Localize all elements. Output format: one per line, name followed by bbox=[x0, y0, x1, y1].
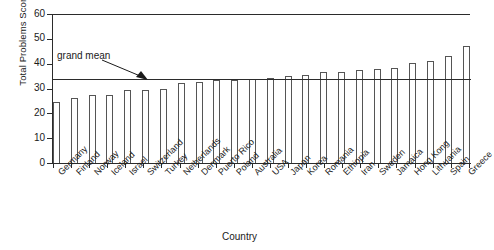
x-tick-label-slot: Finland bbox=[71, 168, 78, 238]
x-tick-label-slot: Germany bbox=[53, 168, 60, 238]
y-tick-label: 40 bbox=[34, 57, 45, 68]
x-tick-label-slot: Korea bbox=[302, 168, 309, 238]
x-tick-label-slot: Lithuania bbox=[427, 168, 434, 238]
y-tick: 10 bbox=[0, 138, 52, 139]
x-tick-label-slot: Hong Kong bbox=[409, 168, 416, 238]
y-tick-label: 60 bbox=[34, 8, 45, 19]
y-tick: 40 bbox=[0, 64, 52, 65]
y-tick-label: 30 bbox=[34, 82, 45, 93]
x-tick-label-slot: Norway bbox=[89, 168, 96, 238]
y-tick: 0 bbox=[0, 163, 52, 164]
y-tick: 60 bbox=[0, 14, 52, 15]
x-tick-label-slot: Netherlands bbox=[178, 168, 185, 238]
y-tick-label: 10 bbox=[34, 132, 45, 143]
y-tick: 50 bbox=[0, 39, 52, 40]
bar bbox=[302, 75, 309, 163]
bar bbox=[142, 90, 149, 164]
y-tick-label: 50 bbox=[34, 32, 45, 43]
bar bbox=[53, 102, 60, 163]
x-tick-label-slot: Israel bbox=[124, 168, 131, 238]
bar bbox=[463, 46, 470, 163]
bar bbox=[374, 69, 381, 163]
bar bbox=[285, 76, 292, 163]
x-tick-label-slot: Denmark bbox=[196, 168, 203, 238]
y-tick-label: 20 bbox=[34, 107, 45, 118]
y-axis-ticks: 0102030405060 bbox=[0, 0, 52, 250]
x-tick-label-slot: Spain bbox=[445, 168, 452, 238]
bar-series bbox=[53, 14, 470, 163]
x-tick-label-slot: Turkey bbox=[160, 168, 167, 238]
x-tick-label-slot: Romania bbox=[320, 168, 327, 238]
bar bbox=[320, 72, 327, 163]
x-tick-label-slot: Poland bbox=[231, 168, 238, 238]
x-tick-label-slot: Greece bbox=[463, 168, 470, 238]
x-tick-label-slot: USA bbox=[267, 168, 274, 238]
x-tick-label-slot: Switzerland bbox=[142, 168, 149, 238]
x-axis-tick-labels: GermanyFinlandNorwayIcelandIsraelSwitzer… bbox=[53, 168, 470, 238]
x-tick-label-slot: Australia bbox=[249, 168, 256, 238]
x-tick-label-slot: Iran bbox=[356, 168, 363, 238]
x-axis-title: Country bbox=[0, 231, 479, 242]
grand-mean-arrow-icon bbox=[100, 58, 160, 84]
x-tick-label-slot: Japan bbox=[285, 168, 292, 238]
x-tick-label-slot: Iceland bbox=[106, 168, 113, 238]
x-tick-label-slot: Sweden bbox=[374, 168, 381, 238]
x-tick-label-slot: Jamaica bbox=[391, 168, 398, 238]
y-tick: 30 bbox=[0, 89, 52, 90]
y-tick-label: 0 bbox=[39, 157, 45, 168]
y-tick: 20 bbox=[0, 113, 52, 114]
x-tick-label-slot: Ethiopia bbox=[338, 168, 345, 238]
x-tick-label-slot: Puerto Rico bbox=[213, 168, 220, 238]
